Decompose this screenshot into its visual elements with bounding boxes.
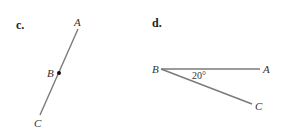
point-label-a-c: A	[73, 16, 81, 28]
point-label-b-c: B	[47, 67, 54, 79]
point-label-c-c: C	[34, 117, 42, 129]
point-label-c-d: C	[255, 100, 263, 112]
point-b-dot	[57, 71, 61, 75]
figure-c: c. A B C	[16, 16, 81, 129]
part-label-d: d.	[152, 16, 162, 30]
figure-d: d. B A C 20°	[152, 16, 270, 112]
ray-bc	[161, 69, 252, 104]
point-label-b-d: B	[152, 63, 159, 75]
point-label-a-d: A	[262, 63, 270, 75]
part-label-c: c.	[16, 18, 24, 32]
angle-label: 20°	[192, 70, 206, 81]
geometry-diagram: c. A B C d. B A C 20°	[0, 0, 287, 132]
